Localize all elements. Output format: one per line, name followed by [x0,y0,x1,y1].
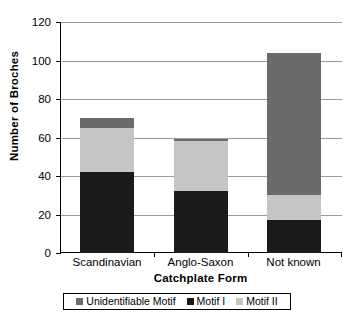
bar-anglo-saxon[interactable] [174,139,228,253]
legend-swatch-icon [236,298,243,305]
y-tick-0 [56,253,61,254]
bar-segment-motif-ii[interactable] [174,141,228,191]
bar-segment-motif-i[interactable] [267,220,321,253]
x-tick-label-anglo-saxon: Anglo-Saxon [154,256,247,269]
bar-segment-unidentifiable[interactable] [267,53,321,195]
legend-swatch-icon [76,298,83,305]
bar-segment-motif-ii[interactable] [267,195,321,220]
bar-segment-unidentifiable[interactable] [80,118,134,128]
y-tick-label-40: 40 [38,171,51,182]
legend-item-motif-i[interactable]: Motif I [187,296,226,307]
legend-item-motif-ii[interactable]: Motif II [236,296,278,307]
bars-layer [60,22,341,253]
legend-label: Motif I [197,296,226,307]
legend-label: Motif II [246,296,278,307]
bar-segment-unidentifiable[interactable] [174,139,228,141]
bar-segment-motif-ii[interactable] [80,128,134,172]
bar-not-known[interactable] [267,53,321,253]
chart-legend: Unidentifiable Motif Motif I Motif II [63,293,291,310]
y-axis-title: Number of Broches [8,16,20,196]
legend-item-unidentifiable-motif[interactable]: Unidentifiable Motif [76,296,175,307]
y-tick-label-80: 80 [38,94,51,105]
bar-scandinavian[interactable] [80,118,134,253]
bar-segment-motif-i[interactable] [174,191,228,253]
y-tick-label-60: 60 [38,133,51,144]
y-tick-label-100: 100 [32,56,51,67]
y-tick-label-0: 0 [45,248,51,259]
bar-segment-motif-i[interactable] [80,172,134,253]
x-axis-title: Catchplate Form [60,272,341,284]
x-tick-3 [341,252,342,257]
x-axis-tick-labels: Scandinavian Anglo-Saxon Not known [60,256,341,272]
x-tick-label-scandinavian: Scandinavian [60,256,154,269]
x-tick-label-not-known: Not known [247,256,340,269]
y-tick-label-120: 120 [32,17,51,28]
y-tick-label-20: 20 [38,210,51,221]
legend-swatch-icon [187,298,194,305]
legend-label: Unidentifiable Motif [86,296,175,307]
bar-chart: 120 100 80 60 40 20 0 Number of Broches [0,0,354,327]
